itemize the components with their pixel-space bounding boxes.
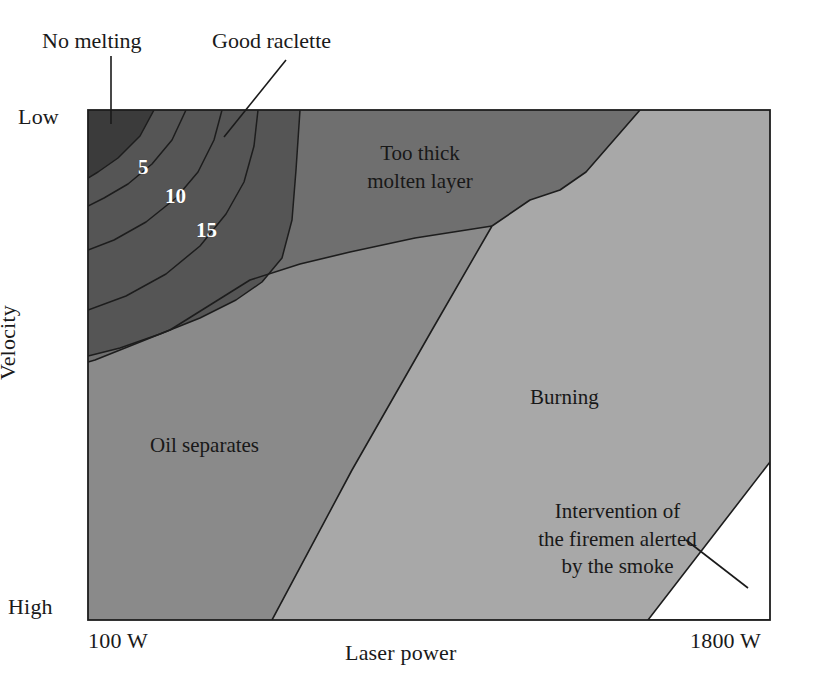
region-label-burning: Burning xyxy=(530,384,680,412)
region-label-intervention: Intervention of the firemen alerted by t… xyxy=(510,498,725,581)
callout-good-raclette: Good raclette xyxy=(212,28,331,54)
contour-label-10: 10 xyxy=(165,184,186,209)
process-map-plot xyxy=(0,0,813,690)
callout-no-melting: No melting xyxy=(42,28,142,54)
x-axis-tick-max: 1800 W xyxy=(690,628,761,654)
y-axis-title: Velocity xyxy=(0,305,21,380)
region-label-oil-separates: Oil separates xyxy=(150,432,340,460)
x-axis-title: Laser power xyxy=(345,640,457,666)
x-axis-tick-min: 100 W xyxy=(88,628,148,654)
figure-container: No melting Good raclette Too thick molte… xyxy=(0,0,813,690)
contour-label-15: 15 xyxy=(196,218,217,243)
region-label-too-thick-molten-layer: Too thick molten layer xyxy=(325,140,515,195)
contour-label-5: 5 xyxy=(138,155,149,180)
y-axis-tick-high: High xyxy=(8,594,53,620)
y-axis-tick-low: Low xyxy=(18,104,59,130)
